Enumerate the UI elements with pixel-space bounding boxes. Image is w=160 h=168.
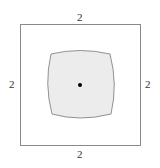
diagram-canvas — [0, 0, 160, 168]
label-bottom: 2 — [77, 149, 83, 160]
label-right: 2 — [145, 79, 151, 90]
label-top: 2 — [77, 12, 83, 23]
center-point — [78, 83, 82, 87]
label-left: 2 — [9, 79, 15, 90]
